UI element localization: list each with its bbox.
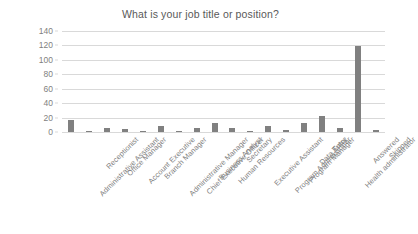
y-tick-mark-60 (55, 88, 58, 89)
y-axis: 020406080100120140 (0, 31, 58, 132)
y-tick-mark-120 (55, 45, 58, 46)
bar[interactable] (301, 123, 307, 132)
y-tick-label-120: 120 (39, 40, 53, 50)
y-tick-mark-20 (55, 117, 58, 118)
y-tick-label-40: 40 (44, 98, 53, 108)
y-tick-mark-80 (55, 74, 58, 75)
bar-series (62, 31, 385, 132)
y-tick-label-60: 60 (44, 84, 53, 94)
y-tick-label-140: 140 (39, 26, 53, 36)
y-tick-label-100: 100 (39, 55, 53, 65)
chart-title: What is your job title or position? (0, 8, 401, 20)
y-tick-mark-40 (55, 103, 58, 104)
y-tick-mark-0 (55, 132, 58, 133)
plot-area (62, 31, 385, 132)
y-tick-mark-100 (55, 59, 58, 60)
bar[interactable] (355, 46, 361, 132)
x-axis: Administrative AssistantReceptionistOffi… (62, 132, 385, 232)
bar[interactable] (212, 123, 218, 132)
bar[interactable] (68, 120, 74, 132)
y-tick-label-0: 0 (48, 127, 53, 137)
y-tick-mark-140 (55, 31, 58, 32)
y-tick-label-80: 80 (44, 69, 53, 79)
y-tick-label-20: 20 (44, 113, 53, 123)
bar[interactable] (319, 116, 325, 132)
